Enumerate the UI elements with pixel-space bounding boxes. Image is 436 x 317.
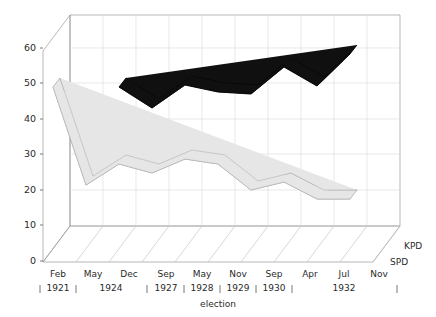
- y-tick-label-40: 40: [24, 113, 36, 124]
- x-axis-year-labels: 1921 1924 1927 1928 1929 1930 1932: [47, 283, 356, 293]
- y-tick-label-30: 30: [24, 148, 36, 159]
- x-label-month-3: Sep: [158, 269, 175, 279]
- x-label-year-1929: 1929: [227, 283, 250, 293]
- x-axis-title: election: [200, 299, 236, 309]
- series-depth-labels: KPD SPD: [390, 241, 422, 267]
- x-label-year-1927: 1927: [155, 283, 178, 293]
- x-label-month-9: Nov: [370, 269, 388, 279]
- floor-line-4: [175, 226, 202, 262]
- y-tick-label-50: 50: [24, 77, 36, 88]
- left-wall-poly: [43, 15, 70, 262]
- x-label-year-1932: 1932: [333, 283, 356, 293]
- x-label-month-6: Sep: [266, 269, 283, 279]
- x-label-year-1924: 1924: [100, 283, 123, 293]
- x-axis-category-labels: Feb May Dec Sep May Nov Sep Apr Jul Nov: [50, 269, 388, 279]
- election-ribbon-chart: 60 50 40 30 20 10 0: [0, 0, 436, 317]
- x-label-month-4: May: [193, 269, 212, 279]
- floor-line-6: [241, 226, 268, 262]
- series-ribbon-spd: [53, 78, 357, 199]
- floor-line-3: [142, 226, 169, 262]
- series-ribbon-kpd: [119, 45, 357, 108]
- chart-container: 60 50 40 30 20 10 0: [0, 0, 436, 317]
- floor-line-8: [307, 226, 334, 262]
- y-tick-label-60: 60: [24, 42, 36, 53]
- y-axis-ticks: [40, 48, 43, 261]
- y-tick-label-10: 10: [24, 219, 36, 230]
- series-label-spd: SPD: [390, 257, 408, 267]
- x-label-month-8: Jul: [338, 269, 350, 279]
- floor-line-9: [340, 226, 367, 262]
- floor-line-7: [274, 226, 301, 262]
- x-label-year-1928: 1928: [191, 283, 214, 293]
- x-label-year-1921: 1921: [47, 283, 70, 293]
- x-label-month-0: Feb: [50, 269, 66, 279]
- floor-line-2: [109, 226, 136, 262]
- x-label-month-1: May: [84, 269, 103, 279]
- x-label-month-7: Apr: [302, 269, 318, 279]
- series-label-kpd: KPD: [404, 241, 422, 251]
- y-tick-label-0: 0: [30, 255, 36, 266]
- y-axis-tick-labels: 60 50 40 30 20 10 0: [24, 42, 36, 266]
- x-label-month-5: Nov: [229, 269, 247, 279]
- floor-line-1: [76, 226, 103, 262]
- x-label-month-2: Dec: [120, 269, 137, 279]
- chart-left-wall: [43, 15, 70, 262]
- x-label-year-1930: 1930: [263, 283, 286, 293]
- floor-line-5: [208, 226, 235, 262]
- y-tick-label-20: 20: [24, 184, 36, 195]
- floor-depth-lines: [76, 226, 400, 262]
